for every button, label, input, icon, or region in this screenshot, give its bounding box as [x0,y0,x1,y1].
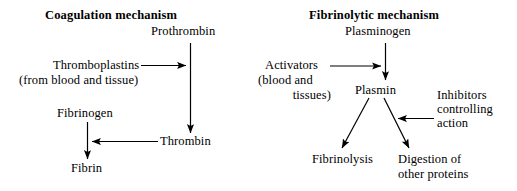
node-thromboplastins-source: (from blood and tissue) [19,73,138,87]
node-thromboplastins: Thromboplastins [53,58,139,72]
node-thrombin: Thrombin [160,134,211,148]
arrow-plasmin-to-fibrinolysis [342,98,369,148]
flowchart-diagram: Coagulation mechanism Prothrombin Thromb… [0,0,517,191]
node-plasminogen: Plasminogen [345,24,411,38]
panel-title-fibrinolytic: Fibrinolytic mechanism [309,8,439,22]
node-fibrinogen: Fibrinogen [57,106,113,120]
node-prothrombin: Prothrombin [151,24,215,38]
node-inhibitors-line1: Inhibitors [437,88,487,102]
node-digestion-line2: other proteins [398,167,468,181]
node-inhibitors-line2: controlling [437,102,493,116]
node-activators-line1: Activators [265,58,318,72]
panel-title-coagulation: Coagulation mechanism [45,8,177,22]
node-activators-line2: (blood and [258,73,313,87]
node-inhibitors-line3: action [437,116,468,130]
node-fibrin: Fibrin [71,161,102,175]
node-digestion-line1: Digestion of [398,152,461,166]
node-activators-line3: tissues) [258,88,331,102]
node-plasmin: Plasmin [355,83,396,97]
arrow-plasmin-to-digestion [384,98,409,148]
node-fibrinolysis: Fibrinolysis [312,152,373,166]
